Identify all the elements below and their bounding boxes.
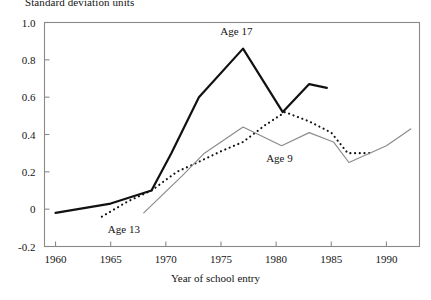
series-line xyxy=(144,127,411,213)
x-tick-label: 1985 xyxy=(320,253,342,265)
x-tick-label: 1970 xyxy=(155,253,177,265)
series-label: Age 9 xyxy=(266,152,293,164)
series-line xyxy=(56,49,327,213)
x-tick-label: 1975 xyxy=(210,253,232,265)
y-axis-title: Standard deviation units xyxy=(25,0,134,8)
x-tick-label: 1990 xyxy=(375,253,397,265)
series-line xyxy=(102,112,373,217)
y-tick-label: 1.0 xyxy=(0,17,36,29)
chart-figure: Standard deviation units 1.00.80.60.40.2… xyxy=(0,0,431,300)
x-tick-label: 1980 xyxy=(265,253,287,265)
x-tick-label: 1960 xyxy=(45,253,67,265)
y-tick-label: 0.8 xyxy=(0,54,36,66)
y-tick-label: 0.6 xyxy=(0,91,36,103)
series-label: Age 13 xyxy=(108,223,140,235)
x-axis-title: Year of school entry xyxy=(0,272,431,284)
y-tick-label: 0.4 xyxy=(0,129,36,141)
y-tick-label: 0 xyxy=(0,203,36,215)
y-tick-label: -0.2 xyxy=(0,241,36,253)
y-tick-label: 0.2 xyxy=(0,166,36,178)
x-tick-label: 1965 xyxy=(100,253,122,265)
series-label: Age 17 xyxy=(220,25,252,37)
